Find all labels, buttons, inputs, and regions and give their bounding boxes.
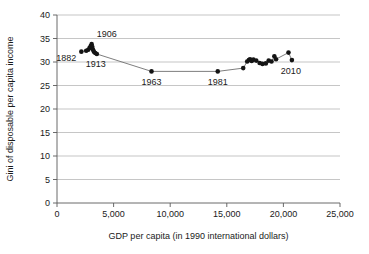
year-annotation: 1882 [56, 53, 76, 63]
y-tick-label: 15 [40, 128, 50, 138]
data-point [290, 58, 295, 63]
x-tick-label: 25,000 [326, 209, 354, 219]
y-axis-title: Gini of disposable per capita income [5, 36, 15, 181]
y-tick-label: 25 [40, 81, 50, 91]
x-tick-label: 15,000 [213, 209, 241, 219]
x-tick-label: 0 [54, 209, 59, 219]
data-point [269, 59, 274, 64]
y-tick-label: 10 [40, 151, 50, 161]
data-point [286, 50, 291, 55]
year-annotation: 2010 [281, 66, 301, 76]
y-tick-label: 35 [40, 34, 50, 44]
x-axis-title: GDP per capita (in 1990 international do… [109, 231, 289, 241]
gini-gdp-scatter-chart: 0510152025303540 05,00010,00015,00020,00… [0, 0, 369, 254]
data-point [149, 69, 154, 74]
year-annotation: 1981 [208, 77, 228, 87]
y-tick-label: 0 [45, 198, 50, 208]
x-tick-label: 10,000 [156, 209, 184, 219]
chart-container: 0510152025303540 05,00010,00015,00020,00… [0, 0, 369, 254]
year-annotation: 1963 [142, 77, 162, 87]
data-point [215, 69, 220, 74]
data-point [95, 52, 100, 57]
year-annotation: 1913 [86, 59, 106, 69]
data-point [241, 66, 246, 71]
y-tick-label: 40 [40, 10, 50, 20]
y-tick-label: 5 [45, 175, 50, 185]
y-tick-label: 20 [40, 104, 50, 114]
data-point [79, 49, 84, 54]
x-tick-label: 20,000 [270, 209, 298, 219]
year-annotation: 1906 [97, 29, 117, 39]
y-tick-label: 30 [40, 57, 50, 67]
data-point [274, 57, 279, 62]
x-tick-label: 5,000 [102, 209, 125, 219]
